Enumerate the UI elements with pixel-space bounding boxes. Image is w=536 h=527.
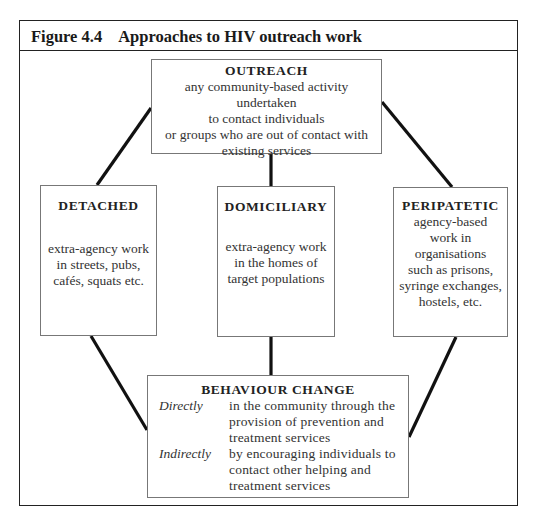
detached-line: in streets, pubs, [41, 257, 156, 273]
outreach-heading: OUTREACH [152, 63, 381, 79]
behaviour-line: treatment services [229, 430, 408, 446]
behaviour-line: contact other helping and [229, 462, 408, 478]
outreach-line: to contact individuals [152, 111, 381, 127]
edge-peripatetic-behaviour [409, 337, 456, 437]
peripatetic-line: hostels, etc. [394, 294, 507, 310]
node-detached: DETACHED extra-agency work in streets, p… [40, 185, 157, 336]
detached-heading: DETACHED [41, 198, 156, 214]
detached-line: extra-agency work [41, 241, 156, 257]
behaviour-change-heading: BEHAVIOUR CHANGE [148, 382, 408, 398]
behaviour-line: treatment services [229, 478, 408, 494]
behaviour-line: by encouraging individuals to [229, 446, 408, 462]
behaviour-row-indirectly: Indirectly by encouraging individuals to… [159, 446, 408, 494]
peripatetic-line: such as prisons, [394, 262, 507, 278]
peripatetic-heading: PERIPATETIC [394, 198, 507, 214]
domiciliary-description: extra-agency work in the homes of target… [218, 239, 334, 287]
edge-outreach-peripatetic [382, 102, 452, 187]
peripatetic-line: work in [394, 230, 507, 246]
domiciliary-line: target populations [218, 271, 334, 287]
outreach-line: or groups who are out of contact with [152, 127, 381, 143]
peripatetic-line: syringe exchanges, [394, 278, 507, 294]
node-behaviour-change: BEHAVIOUR CHANGE Directly in the communi… [147, 375, 409, 498]
outreach-line: existing services [152, 143, 381, 159]
peripatetic-line: organisations [394, 246, 507, 262]
node-peripatetic: PERIPATETIC agency-based work in organis… [393, 187, 508, 337]
edge-detached-behaviour [91, 336, 147, 430]
peripatetic-line: agency-based [394, 214, 507, 230]
domiciliary-heading: DOMICILIARY [218, 199, 334, 215]
behaviour-line: provision of prevention and [229, 414, 408, 430]
detached-line: cafés, squats etc. [41, 273, 156, 289]
outreach-line: undertaken [152, 95, 381, 111]
node-outreach: OUTREACH any community-based activity un… [151, 59, 382, 154]
edge-outreach-detached [97, 108, 151, 185]
peripatetic-description: agency-based work in organisations such … [394, 214, 507, 310]
behaviour-row-text: in the community through the provision o… [229, 398, 408, 446]
behaviour-row-label: Directly [159, 398, 229, 446]
node-domiciliary: DOMICILIARY extra-agency work in the hom… [217, 186, 335, 337]
outreach-line: any community-based activity [152, 79, 381, 95]
detached-description: extra-agency work in streets, pubs, café… [41, 241, 156, 289]
behaviour-line: in the community through the [229, 398, 408, 414]
domiciliary-line: extra-agency work [218, 239, 334, 255]
domiciliary-line: in the homes of [218, 255, 334, 271]
behaviour-row-label: Indirectly [159, 446, 229, 494]
behaviour-row-directly: Directly in the community through the pr… [159, 398, 408, 446]
outreach-description: any community-based activity undertaken … [152, 79, 381, 159]
behaviour-row-text: by encouraging individuals to contact ot… [229, 446, 408, 494]
